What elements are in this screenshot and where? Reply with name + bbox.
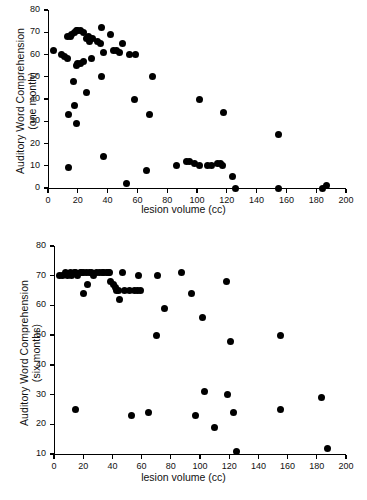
data-point [146,111,153,118]
data-point [80,290,87,297]
y-axis-tick-label: 50 [14,71,40,81]
x-axis-tick-label: 200 [331,461,361,471]
x-axis-tick-label: 80 [156,461,186,471]
x-axis-tick [196,189,197,193]
data-point [196,96,203,103]
x-axis-tick-label: 0 [39,461,69,471]
x-axis-tick-label: 20 [68,461,98,471]
data-point [227,338,234,345]
y-axis-tick-label: 80 [20,240,46,250]
data-point [132,51,139,58]
y-axis-tick [50,424,54,425]
y-axis-tick-label: 10 [14,160,40,170]
data-point [199,314,206,321]
y-axis-tick [44,54,48,55]
y-axis-tick [50,334,54,335]
data-point [70,78,77,85]
data-point [178,269,185,276]
data-point [277,406,284,413]
x-axis-tick-label: 180 [302,461,332,471]
data-point [71,102,78,109]
x-axis-tick [258,455,259,459]
data-point [153,332,160,339]
x-axis-tick [286,189,287,193]
x-axis-tick [345,455,346,459]
x-axis-tick [107,189,108,193]
x-axis-tick-label: 120 [214,461,244,471]
data-point [116,49,123,56]
data-point [50,47,57,54]
x-axis-tick [199,455,200,459]
data-point [143,167,150,174]
data-point [100,49,107,56]
data-point [223,278,230,285]
y-axis-tick [44,98,48,99]
y-axis-tick-label: 20 [20,418,46,428]
data-point [135,272,142,279]
data-point [211,424,218,431]
data-point [116,296,123,303]
y-axis-tick-label: 70 [20,270,46,280]
data-point [131,96,138,103]
data-point [220,109,227,116]
data-point [65,111,72,118]
y-axis-tick [44,121,48,122]
data-point [72,406,79,413]
data-point [275,185,282,192]
plot-area-one-month: 0102030405060708002040608010012014016018… [48,10,346,188]
data-point [324,445,331,452]
data-point [97,40,104,47]
y-axis-tick [50,305,54,306]
data-point [230,409,237,416]
data-point [137,287,144,294]
y-axis-tick [50,394,54,395]
data-point [224,391,231,398]
data-point [107,31,114,38]
data-point [123,180,130,187]
x-axis-title-six-months: lesion volume (cc) [0,471,367,483]
x-axis-tick [112,455,113,459]
data-point [161,305,168,312]
y-axis-tick-label: 40 [14,93,40,103]
y-axis-tick-label: 30 [14,115,40,125]
x-axis-tick-label: 100 [185,461,215,471]
data-point [98,73,105,80]
x-axis-tick [170,455,171,459]
x-axis-tick [83,455,84,459]
x-axis-tick [137,189,138,193]
data-point [84,281,91,288]
y-axis-tick-label: 60 [20,299,46,309]
x-axis-tick [226,189,227,193]
data-point [188,290,195,297]
x-axis-tick [141,455,142,459]
data-point [119,40,126,47]
y-axis-tick-label: 40 [20,359,46,369]
x-axis-tick [316,189,317,193]
x-axis-tick-label: 140 [243,461,273,471]
y-axis-tick [50,245,54,246]
y-axis-tick-label: 70 [14,26,40,36]
y-axis-tick [50,364,54,365]
data-point [196,162,203,169]
data-point [106,269,113,276]
data-point [145,409,152,416]
data-point [88,55,95,62]
data-point [98,24,105,31]
x-axis-tick [287,455,288,459]
data-point [192,412,199,419]
y-axis-tick [44,165,48,166]
plot-area-six-months: 1020304050607080020406080100120140160180… [54,246,346,454]
x-axis-tick [47,189,48,193]
data-point [232,185,239,192]
data-point [277,332,284,339]
y-axis-tick-label: 0 [14,182,40,192]
y-axis-line [54,246,55,454]
data-point [229,173,236,180]
y-axis-tick [44,76,48,77]
y-axis-tick [50,275,54,276]
y-axis-tick [44,143,48,144]
x-axis-tick [53,455,54,459]
x-axis-title-one-month: lesion volume (cc) [0,203,367,215]
data-point [100,153,107,160]
y-axis-tick-label: 30 [20,389,46,399]
